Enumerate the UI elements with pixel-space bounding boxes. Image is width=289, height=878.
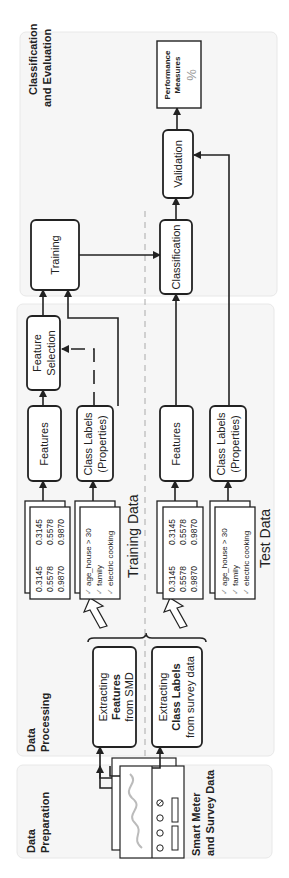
extract-labels-text-1: Extracting: [157, 673, 169, 722]
training-class-labels-text: Class Labels: [82, 412, 94, 475]
validation-text: Validation: [172, 140, 184, 188]
performance-text-2: Measures: [173, 56, 182, 93]
test-matrix-cell: 0.5578: [178, 566, 188, 592]
check-icon: ✓: [95, 588, 104, 595]
preparation-title: Data: [25, 828, 37, 853]
check-icon: ✓: [242, 588, 251, 595]
training-matrix-cell: 0.5578: [45, 519, 55, 545]
test-features-text: Features: [170, 422, 182, 466]
training-data-label: Training Data: [125, 494, 141, 578]
percent-icon: %: [184, 69, 199, 81]
test-matrix-cell: 0.5578: [178, 519, 188, 545]
training-property: family: [95, 565, 104, 586]
smart-meter-icon: [112, 758, 184, 858]
extract-features-text-3: from SMD: [123, 672, 135, 722]
pipeline-diagram: Data Preparation Data Processing Classif…: [0, 0, 289, 878]
check-icon: ✓: [220, 588, 229, 595]
extract-features-text-2: Features: [110, 674, 122, 720]
preparation-title-2: Preparation: [39, 792, 51, 853]
performance-text: Performance: [163, 50, 172, 99]
evaluation-title-2: and Evaluation: [41, 28, 53, 107]
test-data-label: Test Data: [257, 509, 273, 568]
test-property: age_house > 30: [220, 528, 229, 586]
extract-features-text-1: Extracting: [97, 673, 109, 722]
evaluation-title: Classification: [27, 23, 39, 95]
training-matrix-cell: 0.5578: [45, 566, 55, 592]
test-matrix-cell: 0.9870: [189, 566, 199, 592]
classification-text: Classification: [170, 225, 182, 290]
training-property: electric cooking: [106, 531, 115, 586]
processing-title: Data: [25, 727, 37, 752]
training-text: Training: [49, 235, 61, 274]
training-matrix-cell: 0.9870: [56, 519, 66, 545]
check-icon: ✓: [231, 588, 240, 595]
source-label-2: and Survey Data: [204, 769, 216, 856]
source-label: Smart Meter: [190, 792, 202, 856]
training-matrix-cell: 0.9870: [56, 566, 66, 592]
training-class-labels-text-2: (Properties): [96, 415, 108, 472]
feature-selection-text-2: Selection: [45, 330, 57, 375]
test-matrix-cell: 0.3145: [167, 566, 177, 592]
training-matrix-cell: 0.3145: [34, 519, 44, 545]
feature-selection-text: Feature: [31, 334, 43, 372]
test-matrix-cell: 0.3145: [167, 519, 177, 545]
training-property: age_house > 30: [84, 528, 93, 586]
test-class-labels-text-2: (Properties): [229, 415, 241, 472]
extract-labels-text-2: Class Labels: [170, 663, 182, 730]
test-class-labels-text: Class Labels: [215, 412, 227, 475]
training-features-text: Features: [38, 422, 50, 466]
test-property: electric cooking: [242, 531, 251, 586]
test-property: family: [231, 565, 240, 586]
check-icon: ✓: [84, 588, 93, 595]
test-matrix-cell: 0.9870: [189, 519, 199, 545]
extract-labels-text-3: from survey data: [184, 655, 196, 738]
processing-title-2: Processing: [39, 693, 51, 752]
training-matrix-cell: 0.3145: [34, 566, 44, 592]
check-icon: ✓: [106, 588, 115, 595]
